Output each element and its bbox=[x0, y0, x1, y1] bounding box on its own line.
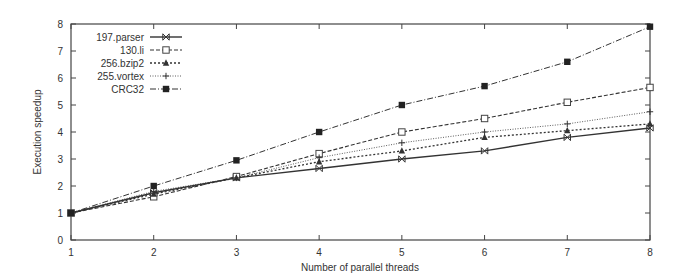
y-tick-label: 3 bbox=[57, 154, 63, 165]
x-tick-label: 6 bbox=[482, 247, 488, 258]
y-tick-label: 8 bbox=[57, 19, 63, 30]
legend: 197.parser130.li256.bzip2255.vortexCRC32 bbox=[96, 32, 182, 95]
filled-square-marker-icon bbox=[151, 183, 157, 189]
y-tick-label: 0 bbox=[57, 235, 63, 246]
series-line bbox=[71, 87, 650, 213]
x-tick-label: 4 bbox=[316, 247, 322, 258]
y-tick-label: 2 bbox=[57, 181, 63, 192]
filled-square-marker-icon bbox=[647, 24, 653, 30]
legend-item: CRC32 bbox=[111, 84, 182, 95]
plot-frame bbox=[71, 24, 650, 240]
plus-marker-icon bbox=[647, 109, 653, 115]
plus-marker-icon bbox=[481, 129, 487, 135]
filled-square-marker-icon bbox=[564, 59, 570, 65]
filled-square-marker-icon bbox=[316, 129, 322, 135]
filled-square-marker-icon bbox=[163, 86, 169, 92]
x-tick-label: 5 bbox=[399, 247, 405, 258]
series-line bbox=[71, 128, 650, 213]
filled-square-marker-icon bbox=[481, 83, 487, 89]
filled-square-marker-icon bbox=[233, 157, 239, 163]
legend-item: 255.vortex bbox=[97, 71, 182, 82]
open-square-marker-icon bbox=[163, 47, 169, 53]
series-crc32 bbox=[68, 24, 653, 217]
legend-label: 197.parser bbox=[96, 32, 144, 43]
triangle-marker-icon bbox=[647, 120, 653, 126]
series-line bbox=[71, 112, 650, 213]
y-tick-label: 6 bbox=[57, 73, 63, 84]
x-tick-label: 8 bbox=[647, 247, 653, 258]
legend-item: 130.li bbox=[120, 45, 182, 56]
x-axis-label: Number of parallel threads bbox=[301, 262, 419, 273]
plus-marker-icon bbox=[163, 73, 169, 79]
filled-square-marker-icon bbox=[68, 210, 74, 216]
open-square-marker-icon bbox=[399, 129, 405, 135]
open-square-marker-icon bbox=[564, 99, 570, 105]
series-256-bzip2 bbox=[68, 120, 653, 216]
legend-item: 256.bzip2 bbox=[101, 58, 182, 69]
x-tick-label: 7 bbox=[565, 247, 571, 258]
legend-label: CRC32 bbox=[111, 84, 144, 95]
legend-label: 130.li bbox=[120, 45, 144, 56]
filled-square-marker-icon bbox=[399, 102, 405, 108]
line-chart: 12345678012345678 197.parser130.li256.bz… bbox=[0, 0, 684, 279]
open-square-marker-icon bbox=[647, 84, 653, 90]
plus-marker-icon bbox=[564, 121, 570, 127]
open-square-marker-icon bbox=[481, 115, 487, 121]
series-197-parser bbox=[68, 125, 653, 216]
x-tick-label: 3 bbox=[234, 247, 240, 258]
series-lines bbox=[68, 24, 653, 217]
y-tick-label: 4 bbox=[57, 127, 63, 138]
y-tick-label: 5 bbox=[57, 100, 63, 111]
legend-label: 256.bzip2 bbox=[101, 58, 145, 69]
y-axis-label: Execution speedup bbox=[32, 89, 43, 175]
y-tick-label: 1 bbox=[57, 208, 63, 219]
legend-label: 255.vortex bbox=[97, 71, 144, 82]
y-tick-label: 7 bbox=[57, 46, 63, 57]
series-line bbox=[71, 27, 650, 213]
legend-item: 197.parser bbox=[96, 32, 182, 43]
x-tick-label: 1 bbox=[68, 247, 74, 258]
x-tick-label: 2 bbox=[151, 247, 157, 258]
series-line bbox=[71, 124, 650, 213]
triangle-marker-icon bbox=[399, 147, 405, 153]
plus-marker-icon bbox=[399, 140, 405, 146]
